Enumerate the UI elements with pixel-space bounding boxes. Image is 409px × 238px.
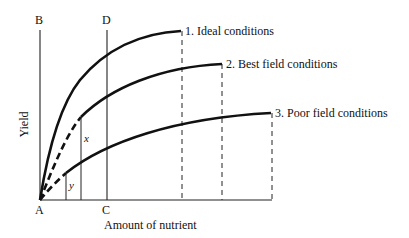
curve-3-label: 3. Poor field conditions	[275, 107, 388, 119]
label-A: A	[35, 204, 44, 216]
label-B: B	[35, 14, 43, 26]
curve-poor	[66, 113, 271, 173]
label-x: x	[84, 133, 89, 144]
curve-best	[81, 64, 222, 117]
curve-best-dashed	[40, 117, 81, 200]
curve-1-label: 1. Ideal conditions	[185, 25, 274, 37]
curve-2-label: 2. Best field conditions	[226, 58, 337, 70]
x-axis-label: Amount of nutrient	[104, 219, 197, 231]
label-y: y	[69, 180, 74, 191]
label-C: C	[102, 204, 110, 216]
y-axis-label: Yield	[17, 112, 32, 138]
curve-ideal	[40, 31, 181, 200]
label-D: D	[102, 14, 111, 26]
